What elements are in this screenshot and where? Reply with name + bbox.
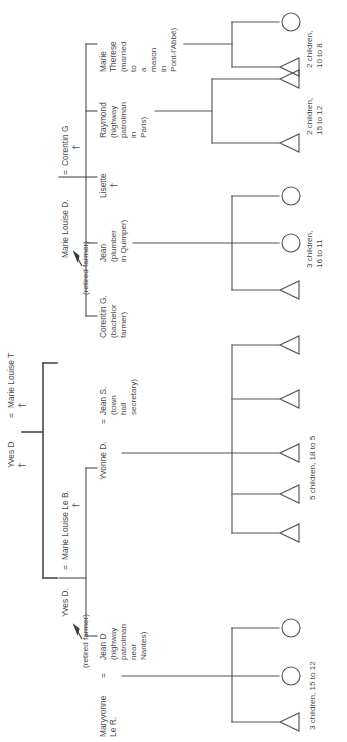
child-a5-detail-4: mason [149,48,158,72]
child-b1-spouse-name-2: Le R. [108,717,118,737]
branch-b-wife-deceased-mark: † [70,503,81,508]
branch-a-husband-name: Corentin G [60,126,70,167]
child-a3-deceased-mark: † [108,183,119,188]
child-a5-detail-5: in [159,66,168,72]
offspring-symbol-male [280,336,299,354]
child-b2-offspring-label: 5 children, 18 to 5 [308,435,317,500]
offspring-symbol-female [282,667,300,685]
child-a5-detail-6: Pont-l'Abbé) [169,27,178,72]
root-marriage-equals: = [6,413,16,418]
child-a1-name: Corentin G. [98,295,108,338]
person-corentin-g-bachelor: Corentin G. (bachelor farmer) [98,295,128,338]
family-jean-d-offspring: 3 children, 15 to 12 [122,619,317,731]
child-a4-detail-1: (highway [109,105,118,138]
child-b2-marriage-equals: = [98,419,108,424]
person-raymond-patrolman: Raymond (highway patrolman in Paris) [98,102,148,138]
offspring-symbol-female [282,13,300,31]
person-lisette: Lisette † [98,173,119,198]
branch-a-husband-deceased-mark: † [70,145,81,150]
child-a1-detail-1: (bachelor [109,304,118,338]
child-a2-offspring-label-2: 16 to 11 [315,239,324,268]
child-a5-name-1: Marie [98,51,108,72]
child-b2-detail-3: secretary) [129,379,138,415]
child-b1-detail-3: near [129,643,138,660]
branch-b-husband-name: Yves D. [60,588,70,617]
child-a4-detail-3: in [129,132,138,138]
child-b2-detail-2: hall [119,402,128,415]
child-b2-name: Yvonne D. [98,441,108,480]
family-marie-therese-offspring: 2 children, 10 to 8 [184,13,324,76]
branch-a-marriage-equals: = [60,170,70,175]
child-a5-detail-3: a [139,67,148,72]
spouse-maryvonne-le-r: Maryvonne = Le R. [98,673,118,737]
offspring-symbol-male [280,485,299,503]
child-a4-detail-4: Paris) [139,117,148,138]
root-marriage-bracket [22,363,57,578]
child-b1-spouse-equals: = [98,673,108,678]
person-jean-plumber: Jean (plumber in Quimper) [98,219,128,262]
branch-b-marriage-equals: = [60,565,70,570]
child-a5-offspring-label-1: 2 children, [305,31,314,68]
offspring-symbol-male [280,134,299,152]
child-b1-detail-1: (highway [109,627,118,660]
child-a1-detail-2: farmer) [119,312,128,338]
offspring-symbol-male [280,390,299,408]
root-wife-deceased-mark: † [16,403,27,408]
child-a4-offspring-label-1: 2 children, [305,98,314,135]
branch-a-structure [59,44,97,316]
person-yvonne-d: Yvonne D. = Jean S. (town hall secretary… [98,379,138,480]
offspring-symbol-male [280,281,299,299]
offspring-symbol-male [280,524,299,542]
child-b1-offspring-label: 3 children, 15 to 12 [308,661,317,730]
root-husband-deceased-mark: † [16,463,27,468]
child-a4-offspring-label-2: 15 to 12 [315,105,324,135]
branch-a-wife-name: Marie Louise D. [60,199,70,258]
root-husband-name: Yves D [6,441,16,468]
child-b2-detail-1: (town [109,395,118,415]
child-a2-offspring-label-1: 3 children, [305,231,314,268]
root-couple-labels: Yves D † = Marie Louise T † [6,353,27,468]
person-marie-therese: Marie Therese (married to a mason in Pon… [98,27,178,72]
child-a2-name: Jean [98,243,108,262]
family-jean-plumber-offspring: 3 children, 16 to 11 [133,187,324,299]
child-b1-detail-2: patrolman [119,624,128,660]
child-b2-spouse-name: Jean S. [98,387,108,415]
child-a2-detail-2: in Quimper) [119,219,128,262]
child-a4-name: Raymond [98,102,108,138]
offspring-symbol-male [280,70,299,88]
child-a5-name-2: Therese [108,41,118,72]
offspring-symbol-male [280,58,299,76]
kinship-svg: Yves D † = Marie Louise T † Marie Louise… [0,0,347,742]
kinship-diagram: Yves D † = Marie Louise T † Marie Louise… [0,0,347,742]
child-a3-name: Lisette [98,173,108,198]
offspring-symbol-female [282,619,300,637]
root-wife-name: Marie Louise T [6,353,16,408]
offspring-symbol-male [280,444,299,462]
person-jean-d-patrolman: Jean D (highway patrolman near Nantes) [98,624,148,660]
offspring-symbol-female [282,234,300,252]
branch-b-wife-name: Marie Louise Le B. [60,490,70,560]
child-a5-offspring-label-2: 10 to 8 [315,43,324,68]
child-a5-detail-1: (married [119,42,128,72]
family-yvonne-offspring: 5 children, 18 to 5 [122,336,317,542]
child-a4-detail-2: patrolman [119,102,128,138]
offspring-symbol-male [280,713,299,731]
child-b1-spouse-name: Maryvonne [98,695,108,737]
child-a2-detail-1: (plumber [109,230,118,262]
child-a5-detail-2: to [129,65,138,72]
family-raymond-offspring: 2 children, 15 to 12 [155,70,324,152]
child-b1-name: Jean D [98,633,108,660]
child-b1-detail-4: Nantes) [139,631,148,660]
offspring-symbol-female [282,187,300,205]
